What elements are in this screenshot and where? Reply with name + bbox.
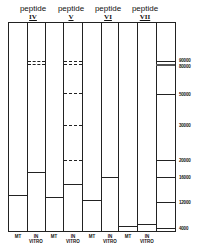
marker-band-4000 [156, 228, 175, 229]
marker-label: 80000 [179, 64, 191, 69]
group-header-vi: peptide VI [88, 5, 128, 21]
lane-divider [118, 22, 119, 232]
group-header-label: peptide [58, 4, 84, 13]
group-header-label: peptide [20, 4, 46, 13]
band-vi-invitro [101, 177, 118, 178]
marker-band-16000 [156, 177, 175, 178]
band-v-mt [45, 197, 63, 198]
band-v-invitro-faint [64, 64, 82, 65]
gel-bottom-edge [8, 231, 175, 232]
lane-divider [27, 22, 28, 232]
marker-label: 90000 [179, 58, 191, 63]
group-header-roman: VII [125, 14, 165, 21]
band-v-invitro [63, 184, 82, 185]
band-v-invitro-faint [64, 61, 82, 62]
marker-label: 4000 [179, 226, 188, 231]
lane-divider [175, 22, 176, 232]
band-v-invitro-faint [64, 125, 82, 126]
group-header-v: peptide V [51, 5, 91, 21]
marker-label: 12000 [179, 200, 191, 205]
group-header-label: peptide [95, 4, 121, 13]
band-v-invitro-faint [64, 93, 82, 94]
group-header-vii: peptide VII [125, 5, 165, 21]
marker-band-80000 [156, 64, 175, 66]
lane-label-invitro: INVITRO [137, 234, 157, 244]
marker-band-50000 [156, 94, 175, 95]
band-iv-invitro [27, 172, 45, 173]
group-header-iv: peptide IV [13, 5, 53, 21]
lane-label-mt: MT [44, 234, 64, 239]
lane-label-mt: MT [82, 234, 102, 239]
lane-divider [45, 22, 46, 232]
lane-divider [8, 22, 9, 232]
marker-band-12000 [156, 202, 175, 203]
lane-divider [156, 22, 157, 232]
group-header-label: peptide [132, 4, 158, 13]
group-header-roman: IV [13, 14, 53, 21]
marker-label: 16000 [179, 175, 191, 180]
band-iv-invitro-faint [28, 61, 45, 62]
band-iv-mt [8, 195, 27, 196]
lane-label-invitro: INVITRO [63, 234, 83, 244]
marker-band-20000 [156, 160, 175, 161]
band-vii-mt [118, 226, 137, 227]
group-header-roman: V [51, 14, 91, 21]
gel-top-edge [8, 22, 175, 23]
lane-divider [101, 22, 102, 232]
band-v-invitro-faint [64, 160, 82, 161]
lane-label-invitro: INVITRO [100, 234, 120, 244]
marker-label: 20000 [179, 158, 191, 163]
marker-label: 50000 [179, 92, 191, 97]
band-vi-mt [82, 200, 101, 201]
lane-divider [63, 22, 64, 232]
band-iv-invitro-faint [28, 64, 45, 65]
band-vii-invitro [137, 224, 156, 225]
lane-label-mt: MT [118, 234, 138, 239]
lane-divider [137, 22, 138, 232]
marker-band-90000 [156, 61, 175, 62]
lane-label-invitro: INVITRO [26, 234, 46, 244]
group-header-roman: VI [88, 14, 128, 21]
marker-label: 30000 [179, 123, 191, 128]
lane-label-mt: MT [8, 234, 28, 239]
